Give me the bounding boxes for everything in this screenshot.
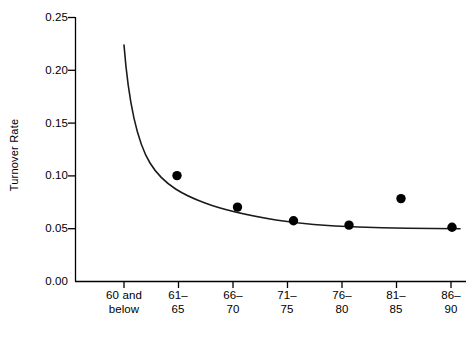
y-axis-ticks [68, 18, 75, 229]
data-point-66-70[interactable] [233, 202, 242, 211]
data-point-61-65[interactable] [172, 171, 181, 180]
data-point-81-85[interactable] [396, 194, 405, 203]
chart-figure: Turnover Rate 0.25 0.20 0.15 0.10 0.05 0… [0, 0, 474, 339]
fitted-curve [124, 45, 460, 229]
data-point-76-80[interactable] [344, 220, 353, 229]
data-point-71-75[interactable] [289, 216, 298, 225]
data-points [172, 171, 456, 232]
plot-area [0, 0, 474, 339]
data-point-86-90[interactable] [447, 223, 456, 232]
axis-lines [75, 17, 466, 282]
